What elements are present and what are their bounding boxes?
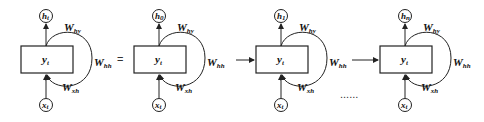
output-label: h1 — [277, 11, 286, 22]
w-xh-label: Wxh — [421, 81, 438, 95]
w-xh-label: Wxh — [297, 81, 314, 95]
output-label: ht — [42, 11, 50, 22]
input-label: xt — [400, 100, 409, 111]
w-xh-label: Wxh — [175, 81, 192, 95]
rnn-cell-step-0: yt h0 xt Why Whh Wxh — [134, 10, 225, 112]
ellipsis: ...... — [340, 88, 358, 100]
rnn-cell-folded: yt ht xt Why Whh Wxh — [21, 10, 112, 112]
equals-sign: = — [117, 53, 123, 65]
w-xh-label: Wxh — [62, 81, 79, 95]
w-hy-label: Why — [177, 21, 195, 35]
output-label: h0 — [155, 11, 164, 22]
output-label: hn — [401, 11, 410, 22]
input-label: xt — [154, 100, 163, 111]
w-hy-label: Why — [423, 21, 441, 35]
w-hh-label: Whh — [94, 56, 112, 70]
w-hh-label: Whh — [207, 56, 225, 70]
rnn-cell-step-1: yt h1 xt Why Whh Wxh — [256, 10, 347, 112]
input-label: xt — [41, 100, 50, 111]
w-hh-label: Whh — [329, 56, 347, 70]
w-hy-label: Why — [64, 21, 82, 35]
rnn-diagram: yt ht xt Why Whh Wxh = yt h0 xt Why Whh … — [0, 0, 484, 122]
w-hh-label: Whh — [453, 56, 471, 70]
input-label: xt — [276, 100, 285, 111]
w-hy-label: Why — [299, 21, 317, 35]
rnn-cell-step-n: yt hn xt Why Whh Wxh — [380, 10, 471, 112]
